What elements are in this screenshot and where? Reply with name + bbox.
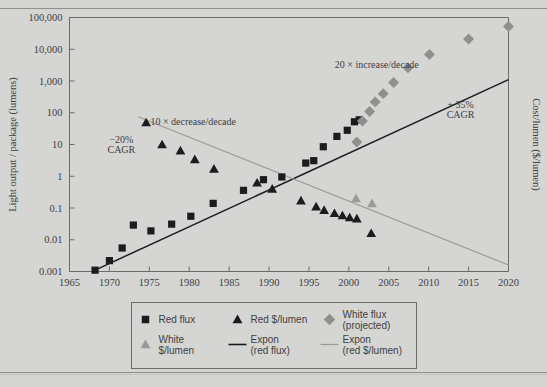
data-point-triangle [267, 184, 277, 193]
x-tick-label: 2020 [498, 277, 519, 288]
y-tick-label: 10,000 [34, 44, 63, 55]
data-point-square [333, 133, 340, 140]
legend-item-label: $/lumen [159, 345, 195, 356]
data-point-square [119, 244, 126, 251]
data-point-square [130, 221, 137, 228]
data-point-square [187, 213, 194, 220]
data-point-triangle [352, 214, 362, 223]
x-tick-label: 1965 [59, 277, 80, 288]
chart-annotation: 20 × increase/decade [335, 59, 419, 70]
x-tick-label: 2010 [418, 277, 439, 288]
data-point-triangle [176, 146, 186, 155]
legend-marker-diamond [324, 314, 336, 326]
chart-annotation: 10 × decrease/decade [150, 116, 236, 127]
data-point-triangle [319, 205, 329, 214]
legend-item-label: (red flux) [251, 345, 290, 356]
data-point-square [168, 221, 175, 228]
x-tick-label: 1970 [99, 277, 120, 288]
y-tick-label: 0.1 [49, 203, 62, 214]
x-tick-label: 1995 [298, 277, 319, 288]
legend-item-label: (projected) [343, 320, 391, 331]
data-point-square [260, 176, 267, 183]
data-point-triangle [345, 213, 355, 222]
y-axis-title: Light output / package (lumens) [7, 77, 19, 212]
figure-container: 100,00010,0001,0001001010.10.010.0011965… [0, 0, 547, 387]
legend-item-label: Expon [251, 334, 279, 345]
data-point-square [278, 173, 285, 180]
y-tick-label: 0.01 [44, 234, 62, 245]
legend-item-label: White flux [343, 309, 387, 320]
data-point-triangle [157, 140, 167, 149]
data-point-triangle [367, 198, 377, 207]
y-tick-label: 1,000 [39, 76, 63, 87]
data-point-square [302, 159, 309, 166]
legend-item-label: Expon [343, 334, 371, 345]
y-tick-label: 100 [47, 107, 63, 118]
data-point-triangle [296, 196, 306, 205]
x-tick-label: 1975 [139, 277, 160, 288]
data-point-diamond [378, 88, 389, 99]
legend-marker-triangle [141, 340, 151, 349]
x-tick-label: 1985 [219, 277, 240, 288]
data-point-triangle [338, 211, 348, 220]
y-tick-label: 100,000 [28, 12, 62, 23]
x-tick-label: 2000 [338, 277, 359, 288]
data-point-diamond [463, 34, 474, 45]
legend-item-label: (red $/lumen) [343, 345, 402, 356]
y-tick-label: 0.001 [39, 266, 63, 277]
y-tick-label: 1 [57, 171, 62, 182]
data-point-diamond [370, 96, 381, 107]
data-point-square [147, 227, 154, 234]
y2-axis-title: Cost/lumen ($/lumen) [530, 98, 542, 191]
data-point-triangle [209, 164, 219, 173]
haitz-law-chart: 100,00010,0001,0001001010.10.010.0011965… [0, 0, 547, 387]
legend-item-label: Red flux [159, 314, 196, 325]
y-tick-label: 10 [52, 139, 63, 150]
plot-frame [70, 18, 509, 272]
chart-annotation: CAGR [107, 144, 135, 155]
data-point-triangle [351, 194, 361, 203]
data-point-triangle [311, 202, 321, 211]
x-tick-label: 1990 [259, 277, 280, 288]
data-point-diamond [424, 49, 435, 60]
data-point-triangle [330, 208, 340, 217]
data-point-diamond [388, 77, 399, 88]
legend-item-label: White [159, 334, 185, 345]
data-point-triangle [366, 228, 376, 237]
legend-marker-square [142, 316, 150, 324]
x-tick-label: 2005 [378, 277, 399, 288]
data-point-square [106, 257, 113, 264]
legend-marker-triangle [233, 315, 243, 324]
data-point-square [210, 200, 217, 207]
data-point-square [310, 157, 317, 164]
data-point-square [344, 127, 351, 134]
data-point-diamond [364, 106, 375, 117]
trendline [138, 117, 508, 265]
data-point-triangle [190, 155, 200, 164]
data-point-diamond [503, 21, 514, 32]
data-point-square [91, 267, 98, 274]
legend-item-label: Red $/lumen [251, 314, 308, 325]
chart-annotation: CAGR [447, 109, 475, 120]
data-point-square [240, 187, 247, 194]
data-point-square [320, 143, 327, 150]
data-point-diamond [351, 137, 362, 148]
x-tick-label: 1980 [179, 277, 200, 288]
x-tick-label: 2015 [458, 277, 479, 288]
